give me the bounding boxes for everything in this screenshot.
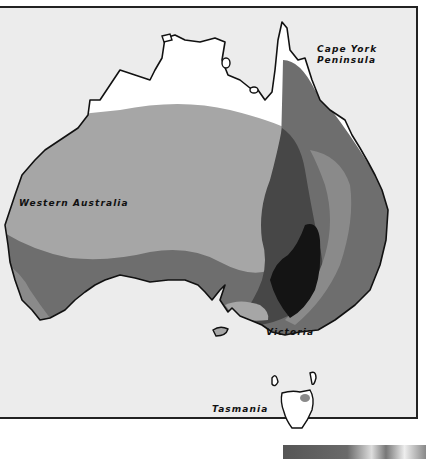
label-victoria: Victoria: [266, 327, 314, 338]
label-western-australia: Western Australia: [19, 198, 129, 209]
label-cape-york: Cape York Peninsula: [317, 44, 377, 66]
label-tasmania: Tasmania: [212, 404, 268, 415]
australia-map: [0, 0, 426, 459]
tasmania-shape: [281, 390, 313, 428]
mainland-shading: [0, 22, 390, 340]
image-strip-fragment: [283, 445, 426, 459]
